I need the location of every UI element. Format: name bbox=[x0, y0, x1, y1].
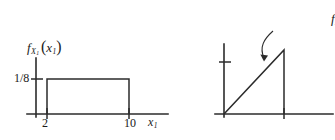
marginal-density-plot bbox=[0, 0, 170, 140]
annotation-arrow-head bbox=[260, 55, 268, 62]
marginal-function-label: fX1(x1) bbox=[27, 39, 61, 56]
x-tick-label-10: 10 bbox=[124, 117, 136, 129]
marginal-close-paren: ) bbox=[56, 38, 61, 55]
conditional-density-plot bbox=[165, 0, 335, 140]
x-tick-label-2: 2 bbox=[42, 117, 48, 129]
annotation-arrow-curve bbox=[262, 31, 273, 58]
figure-root: fX1(x1) 1/8 2 10 x1 fX2|X1(x2|x1) bbox=[0, 0, 335, 140]
panel-conditional-density: fX2|X1(x2|x1) slope 2 /x12 2/x1 x1 x2 bbox=[165, 0, 335, 140]
conditional-function-label: fX2|X1(x2|x1) bbox=[331, 10, 335, 27]
x-axis-label-x1: x1 bbox=[148, 116, 157, 130]
x-axis-index-left: 1 bbox=[153, 121, 157, 130]
triangular-density-curve bbox=[224, 50, 284, 114]
uniform-density-curve bbox=[47, 79, 129, 114]
y-tick-label-one-eighth: 1/8 bbox=[14, 72, 29, 84]
panel-marginal-density: fX1(x1) 1/8 2 10 x1 bbox=[0, 0, 170, 140]
